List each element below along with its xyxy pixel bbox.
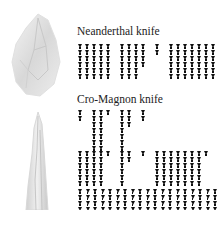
tool-symbol-icon: [99, 163, 103, 167]
tool-symbol-icon: [120, 151, 124, 155]
tool-symbol-icon: [211, 44, 215, 48]
tool-symbol-icon: [190, 181, 194, 185]
tool-symbol-icon: [92, 163, 96, 167]
tool-symbol-icon: [78, 189, 82, 193]
tool-symbol-icon: [168, 195, 172, 199]
tool-symbol-icon: [92, 62, 96, 66]
tool-symbol-icon: [99, 56, 103, 60]
tool-symbol-icon: [92, 157, 96, 161]
tool-symbol-icon: [206, 189, 210, 193]
tool-symbol-icon: [190, 169, 194, 173]
tool-symbol-icon: [161, 195, 165, 199]
tool-symbol-icon: [99, 151, 103, 155]
tool-symbol-icon: [93, 207, 97, 210]
tool-symbol-icon: [92, 122, 96, 126]
tool-symbol-icon: [198, 207, 202, 210]
tool-symbol-icon: [108, 195, 112, 199]
tool-symbol-icon: [162, 157, 166, 161]
tool-symbol-icon: [176, 169, 180, 173]
tool-symbol-icon: [131, 207, 135, 210]
tool-symbol-icon: [120, 181, 124, 185]
tool-symbol-icon: [168, 189, 172, 193]
tool-symbol-icon: [78, 62, 82, 66]
tool-symbol-icon: [191, 189, 195, 193]
tool-symbol-icon: [141, 56, 145, 60]
tool-symbol-icon: [99, 146, 103, 150]
tool-symbol-icon: [176, 175, 180, 179]
tool-symbol-icon: [168, 207, 172, 210]
tool-symbol-icon: [92, 169, 96, 173]
tool-symbol-icon: [93, 195, 97, 199]
tool-symbol-icon: [134, 50, 138, 54]
tool-symbol-icon: [120, 110, 124, 114]
tool-symbol-icon: [155, 181, 159, 185]
tool-symbol-icon: [99, 122, 103, 126]
tool-symbol-icon: [169, 44, 173, 48]
tool-symbol-icon: [176, 181, 180, 185]
tool-symbol-icon: [176, 62, 180, 66]
tool-symbol-icon: [120, 140, 124, 144]
tool-symbol-icon: [134, 74, 138, 78]
tool-symbol-icon: [101, 207, 105, 210]
tool-symbol-icon: [78, 157, 82, 161]
tool-symbol-icon: [176, 44, 180, 48]
tool-symbol-icon: [161, 189, 165, 193]
tool-symbol-icon: [204, 68, 208, 72]
tool-symbol-icon: [120, 122, 124, 126]
tool-symbol-icon: [141, 110, 145, 114]
tool-symbol-icon: [78, 175, 82, 179]
tool-symbol-icon: [169, 169, 173, 173]
tool-symbol-icon: [183, 195, 187, 199]
tool-symbol-icon: [99, 44, 103, 48]
tool-symbol-icon: [138, 195, 142, 199]
tool-symbol-icon: [213, 201, 217, 205]
tool-symbol-icon: [108, 207, 112, 210]
tool-symbol-icon: [131, 201, 135, 205]
tool-symbol-icon: [93, 201, 97, 205]
tool-symbol-icon: [155, 157, 159, 161]
tool-symbol-icon: [106, 56, 110, 60]
tool-symbol-icon: [211, 74, 215, 78]
tool-symbol-icon: [127, 50, 131, 54]
tool-symbol-icon: [120, 50, 124, 54]
tool-symbol-icon: [106, 151, 110, 155]
tool-symbol-icon: [85, 181, 89, 185]
tool-symbol-icon: [141, 116, 145, 120]
tool-symbol-icon: [86, 201, 90, 205]
tool-symbol-icon: [183, 68, 187, 72]
tool-symbol-icon: [92, 74, 96, 78]
tool-symbol-icon: [169, 151, 173, 155]
tool-symbol-icon: [85, 44, 89, 48]
tool-symbol-icon: [176, 201, 180, 205]
tool-symbol-icon: [120, 74, 124, 78]
tool-symbol-icon: [153, 195, 157, 199]
tool-symbol-icon: [141, 62, 145, 66]
tool-symbol-icon: [161, 207, 165, 210]
tool-symbol-icon: [92, 110, 96, 114]
tool-symbol-icon: [155, 44, 159, 48]
tool-symbol-icon: [78, 116, 82, 120]
tool-symbol-icon: [127, 110, 131, 114]
tool-symbol-icon: [106, 74, 110, 78]
tool-symbol-icon: [213, 207, 217, 210]
tool-symbol-icon: [204, 74, 208, 78]
tool-symbol-icon: [176, 50, 180, 54]
tool-symbol-icon: [190, 163, 194, 167]
tool-symbol-icon: [78, 56, 82, 60]
tool-symbol-icon: [161, 201, 165, 205]
tool-symbol-icon: [85, 62, 89, 66]
tool-symbol-icon: [146, 207, 150, 210]
tool-symbol-icon: [183, 151, 187, 155]
tool-symbol-icon: [99, 181, 103, 185]
tool-symbol-icon: [101, 189, 105, 193]
tool-symbol-icon: [92, 175, 96, 179]
tool-symbol-icon: [153, 189, 157, 193]
tool-symbol-icon: [197, 163, 201, 167]
tool-symbol-icon: [120, 44, 124, 48]
tool-symbol-icon: [206, 201, 210, 205]
tool-symbol-icon: [169, 163, 173, 167]
tool-symbol-icon: [99, 140, 103, 144]
tool-symbol-icon: [190, 50, 194, 54]
tool-symbol-icon: [99, 74, 103, 78]
tool-symbol-icon: [108, 189, 112, 193]
